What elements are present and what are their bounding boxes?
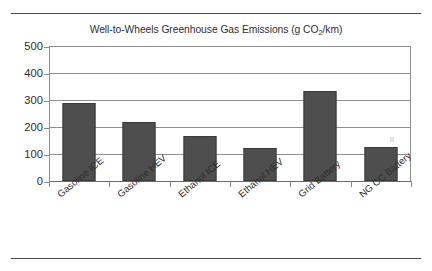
chart-title: Well-to-Wheels Greenhouse Gas Emissions …	[0, 24, 432, 35]
x-axis-tick	[109, 181, 110, 187]
x-axis-tick	[411, 181, 412, 187]
figure-top-rule	[11, 13, 421, 14]
bar-slot	[170, 46, 230, 181]
y-tick-label-300: 300	[1, 94, 43, 106]
x-axis-tick	[351, 181, 352, 187]
y-tick-label-500: 500	[1, 40, 43, 52]
x-axis-tick	[230, 181, 231, 187]
figure-bottom-rule	[11, 258, 421, 259]
chart-title-suffix: /km)	[322, 24, 342, 35]
x-axis-tick	[170, 181, 171, 187]
chart-title-subscript: 2	[318, 28, 322, 37]
y-tick-label-0: 0	[1, 175, 43, 187]
y-tick-label-200: 200	[1, 121, 43, 133]
bar-slot	[290, 46, 350, 181]
chart-title-prefix: Well-to-Wheels Greenhouse Gas Emissions …	[90, 24, 319, 35]
x-axis-tick	[290, 181, 291, 187]
y-tick-label-100: 100	[1, 148, 43, 160]
x-axis-tick-origin	[49, 181, 50, 187]
y-tick-label-400: 400	[1, 67, 43, 79]
chart-figure: Well-to-Wheels Greenhouse Gas Emissions …	[0, 0, 432, 271]
